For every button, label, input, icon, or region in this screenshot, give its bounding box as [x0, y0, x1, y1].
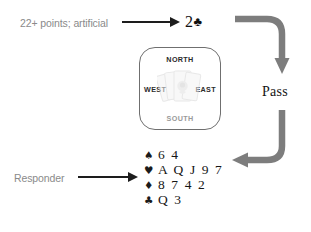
opening-bid-annotation: 22+ points; artificial: [20, 17, 108, 29]
arrow-shaft: [122, 21, 171, 23]
hand-cards-club: Q 3: [158, 192, 183, 208]
hand-row-spade: ♠ 6 4: [144, 147, 223, 162]
arrow-shaft: [78, 176, 129, 178]
compass-table-box: NORTH WEST EAST SOUTH: [139, 47, 221, 130]
heart-suit-icon: ♥: [144, 165, 158, 176]
arrow-head-right-icon: [170, 17, 180, 27]
hand-cards-diamond: 8 7 4 2: [158, 177, 206, 193]
opening-bid-label: 2♣: [185, 13, 203, 31]
hand-row-club: ♣ Q 3: [144, 192, 223, 207]
hand-row-diamond: ♦ 8 7 4 2: [144, 177, 223, 192]
annotation-arrow-to-bid: [122, 17, 180, 27]
compass-label-north: NORTH: [166, 55, 193, 64]
bid-level: 2: [185, 13, 194, 30]
hand-row-heart: ♥ A Q J 9 7: [144, 162, 223, 177]
compass-label-west: WEST: [144, 84, 166, 93]
club-suit-icon: ♣: [144, 195, 158, 206]
bid-to-pass-arrow: [235, 19, 290, 74]
responder-annotation: Responder: [14, 172, 64, 184]
compass-label-south: SOUTH: [167, 114, 194, 123]
diamond-suit-icon: ♦: [144, 180, 158, 191]
club-suit-icon: ♣: [194, 14, 203, 29]
bridge-bidding-diagram: 22+ points; artificial 2♣ NORTH WEST EAS…: [0, 0, 311, 232]
arrow-head-right-icon: [128, 172, 138, 182]
responder-hand: ♠ 6 4 ♥ A Q J 9 7 ♦ 8 7 4 2 ♣ Q 3: [144, 147, 223, 207]
hand-cards-spade: 6 4: [158, 147, 180, 163]
annotation-arrow-to-hand: [78, 172, 138, 182]
pass-to-responder-arrow: [232, 110, 282, 168]
hand-cards-heart: A Q J 9 7: [158, 162, 223, 178]
compass-label-east: EAST: [195, 84, 216, 93]
pass-label: Pass: [262, 84, 288, 100]
spade-suit-icon: ♠: [144, 150, 158, 161]
